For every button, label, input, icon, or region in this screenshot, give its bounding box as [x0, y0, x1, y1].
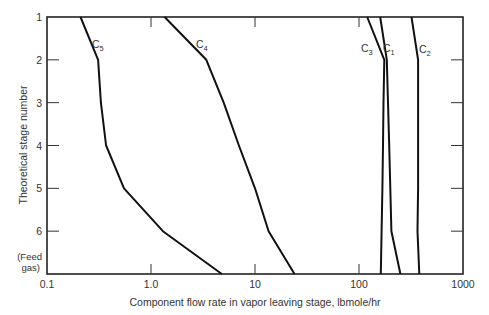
y-tick-label: 3 [36, 97, 42, 109]
x-tick-label: 10 [249, 278, 261, 290]
y-axis-label: Theoretical stage number [17, 85, 29, 205]
chart: 0.11.0101001000123456(Feedgas) C1C2C3C4C… [0, 0, 489, 315]
y-tick-label: gas) [22, 262, 40, 273]
y-tick-label: 2 [36, 54, 42, 66]
x-tick-label: 100 [350, 278, 368, 290]
curve-label-c1: C1 [383, 42, 395, 57]
curve-c5 [81, 17, 222, 274]
y-tick-label: 1 [36, 11, 42, 23]
x-tick-label: 1.0 [144, 278, 159, 290]
y-tick-label: 6 [36, 225, 42, 237]
y-tick-label: 5 [36, 182, 42, 194]
curve-label-c3: C3 [361, 42, 373, 57]
plot-axes: 0.11.0101001000123456(Feedgas) [17, 11, 475, 290]
x-tick-label: 1000 [451, 278, 475, 290]
curve-c4 [165, 17, 295, 274]
curve-c2 [412, 17, 420, 274]
y-tick-label: 4 [36, 140, 42, 152]
x-axis-label: Component flow rate in vapor leaving sta… [130, 296, 381, 308]
x-tick-label: 0.1 [40, 278, 55, 290]
y-tick-label: (Feed [17, 251, 42, 262]
plot-frame [47, 17, 463, 274]
curve-label-c2: C2 [419, 43, 431, 58]
